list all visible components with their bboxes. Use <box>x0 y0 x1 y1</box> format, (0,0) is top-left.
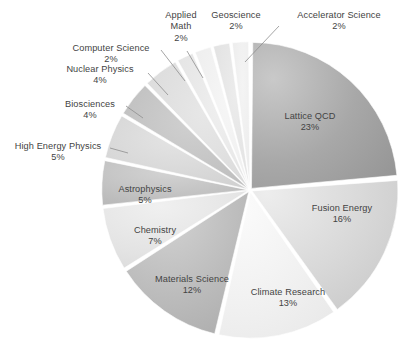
slice-label-high-energy-physics: High Energy Physics 5% <box>8 141 108 164</box>
slice-label-fusion-energy: Fusion Energy 16% <box>300 203 384 226</box>
slice-label-computer-science: Computer Science 2% <box>62 43 160 66</box>
slice-label-materials-science: Materials Science 12% <box>142 274 242 297</box>
slice-label-chemistry: Chemistry 7% <box>124 225 186 248</box>
slice-label-astrophysics: Astrophysics 5% <box>108 184 182 207</box>
slice-label-geoscience: Geoscience 2% <box>203 10 269 33</box>
slice-label-applied-math: Applied Math 2% <box>156 10 206 44</box>
slice-label-lattice-qcd: Lattice QCD 23% <box>272 111 348 134</box>
slice-label-climate-research: Climate Research 13% <box>238 287 338 310</box>
slice-label-accelerator-science: Accelerator Science 2% <box>283 10 395 33</box>
pie-chart: Applied Math 2% Geoscience 2% Accelerato… <box>0 0 414 356</box>
slice-label-biosciences: Biosciences 4% <box>55 99 125 122</box>
slice-label-nuclear-physics: Nuclear Physics 4% <box>54 64 146 87</box>
